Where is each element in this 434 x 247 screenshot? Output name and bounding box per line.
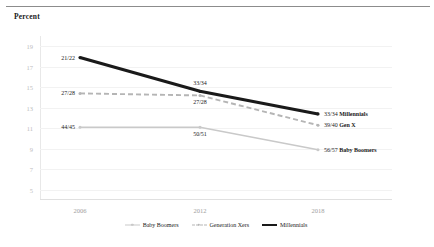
series-marker (199, 126, 202, 129)
legend-label: Millennials (280, 222, 307, 228)
series-marker (78, 56, 81, 59)
legend-label: Generation Xers (210, 222, 249, 228)
legend-item: Millennials (262, 222, 307, 228)
y-axis-tick-label: 19 (27, 43, 34, 50)
point-label: 21/22 (61, 55, 75, 61)
chart-legend: Baby BoomersGeneration XersMillennials (40, 222, 392, 228)
chart-figure: Percent 1917151311975 200620122018 21/22… (0, 0, 434, 247)
top-divider (6, 6, 430, 7)
y-axis-tick-label: 7 (30, 166, 33, 173)
legend-swatch-icon (192, 222, 207, 228)
x-axis-tick-label: 2006 (74, 207, 87, 214)
y-axis-tick-label: 5 (30, 186, 33, 193)
x-axis-tick-label: 2018 (312, 207, 325, 214)
y-axis-tick-label: 17 (27, 63, 34, 70)
point-label: 44/45 (61, 124, 75, 130)
legend-label: Baby Boomers (143, 222, 179, 228)
point-label: 33/34 (193, 80, 207, 86)
legend-item: Baby Boomers (125, 222, 179, 228)
point-label: 33/34 Millennials (324, 111, 368, 117)
y-axis-tick-label: 9 (30, 145, 33, 152)
series-marker (317, 124, 320, 127)
series-marker (198, 90, 201, 93)
series-marker (79, 92, 82, 95)
y-axis-tick-label: 15 (27, 84, 34, 91)
series-marker (316, 112, 319, 115)
y-axis-title: Percent (14, 12, 40, 21)
y-axis-tick-label: 11 (27, 125, 33, 132)
point-label: 27/28 (193, 99, 207, 105)
legend-swatch-icon (125, 222, 140, 228)
series-marker (79, 126, 82, 129)
series-marker (317, 148, 320, 151)
legend-swatch-icon (262, 222, 277, 228)
point-label: 27/28 (61, 90, 75, 96)
series-marker (199, 94, 202, 97)
point-label: 56/57 Baby Boomers (324, 147, 377, 153)
series-line-generation-xers (80, 93, 318, 125)
plot-area: 1917151311975 200620122018 21/2233/3433/… (40, 36, 392, 200)
series-lines (40, 36, 392, 200)
x-axis-tick-label: 2012 (194, 207, 207, 214)
point-label: 50/51 (193, 131, 207, 137)
legend-item: Generation Xers (192, 222, 249, 228)
y-axis-tick-label: 13 (27, 104, 34, 111)
point-label: 39/40 Gen X (324, 122, 356, 128)
